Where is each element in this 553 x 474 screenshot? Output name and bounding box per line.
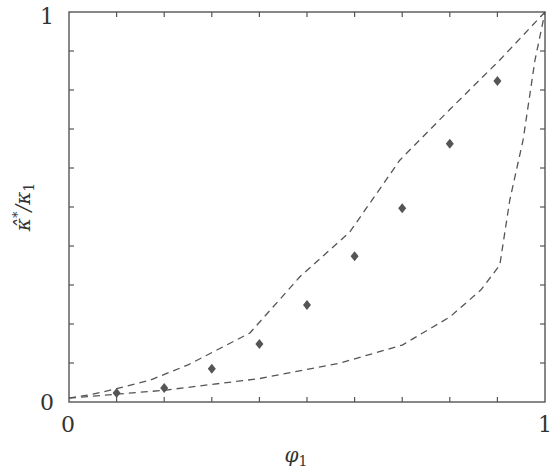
data-point-diamond: [208, 364, 216, 374]
data-point-diamond: [351, 251, 359, 261]
axes-frame: [69, 12, 545, 402]
chart: 0 1 0 1 φ1 κ̂*/κ1: [0, 0, 553, 474]
x-tick-label-min: 0: [61, 412, 75, 437]
y-tick-label-min: 0: [40, 390, 54, 415]
plot-area: [69, 12, 545, 398]
upper-bound-curve: [69, 12, 545, 398]
x-tick-label-max: 1: [538, 412, 552, 437]
lower-bound-curve: [69, 12, 545, 398]
y-tick-label-max: 1: [40, 4, 54, 29]
data-point-diamond: [398, 203, 406, 213]
data-point-diamond: [160, 383, 168, 393]
data-point-diamond: [446, 139, 454, 149]
y-axis-label: κ̂*/κ1: [10, 183, 37, 232]
data-point-diamond: [113, 388, 121, 398]
axis-ticks: [69, 12, 545, 402]
data-point-diamond: [303, 300, 311, 310]
data-point-diamond: [255, 339, 263, 349]
x-axis-label: φ1: [285, 443, 308, 469]
data-point-diamond: [493, 76, 501, 86]
